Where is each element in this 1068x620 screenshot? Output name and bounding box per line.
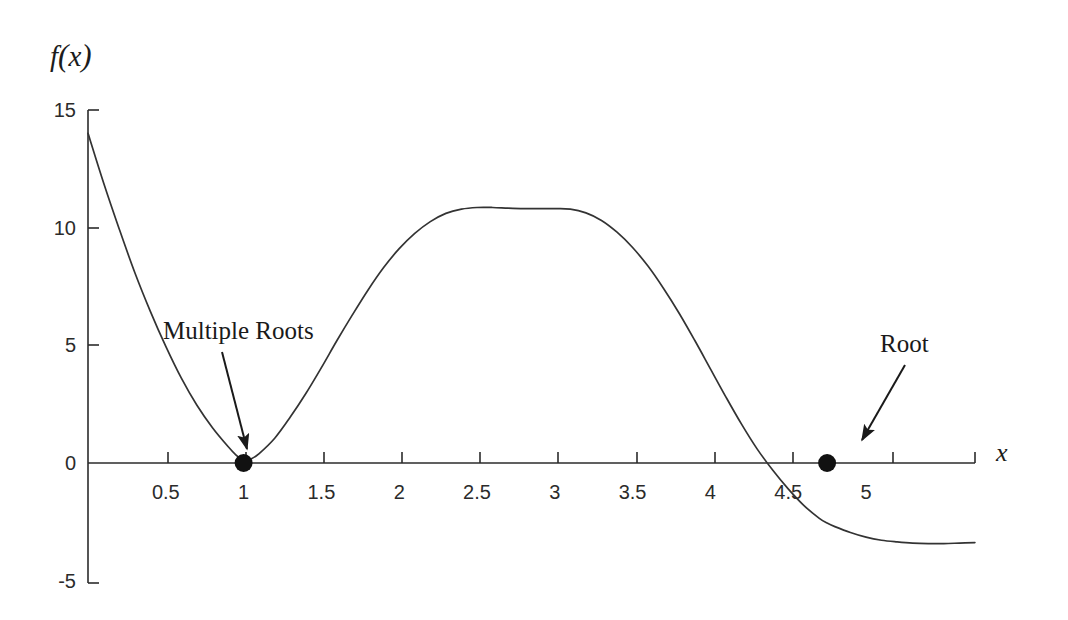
y-tick-label-5: 5 — [18, 335, 76, 355]
x-tick-label-2p5: 2.5 — [447, 482, 507, 502]
x-tick-label-4p5: 4.5 — [758, 482, 818, 502]
x-tick-label-1: 1 — [214, 482, 274, 502]
y-tick-label-10: 10 — [18, 218, 76, 238]
x-axis-label: x — [996, 440, 1008, 466]
chart-figure: f(x) x 0.511.522.533.544.55151050-5 Mult… — [0, 0, 1068, 620]
annotation-arrow-multiple-roots — [222, 352, 247, 449]
annotation-arrow-root — [862, 365, 905, 440]
y-tick-label-15: 15 — [18, 100, 76, 120]
x-tick-label-0p5: 0.5 — [136, 482, 196, 502]
root-marker-multiple-root — [235, 454, 253, 472]
annotation-arrows — [222, 352, 905, 449]
y-tick-label-minus5: -5 — [18, 571, 76, 591]
x-tick-label-3p5: 3.5 — [603, 482, 663, 502]
root-marker-simple-root — [818, 454, 836, 472]
x-tick-label-5: 5 — [836, 482, 896, 502]
y-axis-label: f(x) — [50, 40, 92, 71]
x-tick-label-1p5: 1.5 — [291, 482, 351, 502]
y-axis-ticks — [88, 110, 99, 583]
annotation-text-root: Root — [880, 331, 929, 356]
x-axis-ticks — [168, 452, 975, 463]
x-tick-label-4: 4 — [680, 482, 740, 502]
x-tick-label-2: 2 — [369, 482, 429, 502]
annotation-text-multiple-roots: Multiple Roots — [163, 318, 314, 343]
plot-canvas — [0, 0, 1068, 620]
y-tick-label-0: 0 — [18, 453, 76, 473]
x-tick-label-3: 3 — [525, 482, 585, 502]
